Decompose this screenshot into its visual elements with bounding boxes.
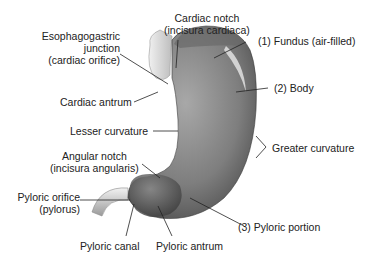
label-angular-notch: Angular notch (incisura angularis) — [50, 150, 139, 174]
label-pyloric-portion: (3) Pyloric portion — [238, 221, 320, 233]
esophagus — [149, 30, 172, 79]
label-line: Pyloric orifice — [12, 191, 80, 203]
label-pyloric-orifice: Pyloric orifice (pylorus) — [12, 191, 80, 215]
label-line: (cardiac orifice) — [40, 54, 120, 66]
label-line: Angular notch — [50, 150, 139, 162]
label-line: (incisura cardiaca) — [164, 24, 250, 36]
label-line: junction — [40, 42, 120, 54]
label-line: (pylorus) — [12, 203, 80, 215]
label-pyloric-antrum: Pyloric antrum — [156, 240, 223, 252]
label-cardiac-antrum: Cardiac antrum — [60, 96, 132, 108]
stomach-diagram: Cardiac notch (incisura cardiaca) Esopha… — [0, 0, 368, 264]
label-line: (incisura angularis) — [50, 162, 139, 174]
label-line: Esophagogastric — [40, 30, 120, 42]
label-line: Cardiac notch — [164, 12, 250, 24]
label-fundus: (1) Fundus (air-filled) — [258, 35, 355, 47]
label-pyloric-canal: Pyloric canal — [80, 240, 140, 252]
duodenum — [92, 188, 128, 216]
label-body: (2) Body — [274, 82, 314, 94]
label-esophagogastric-junction: Esophagogastric junction (cardiac orific… — [40, 30, 120, 66]
label-cardiac-notch: Cardiac notch (incisura cardiaca) — [164, 12, 250, 36]
pyloric-antrum-region — [130, 174, 182, 217]
label-lesser-curvature: Lesser curvature — [70, 125, 148, 137]
label-greater-curvature: Greater curvature — [272, 142, 354, 154]
